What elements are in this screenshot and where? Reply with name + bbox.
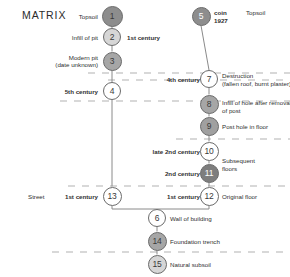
- edge-5-7: [201, 26, 209, 71]
- context-node-5-number: 5: [199, 12, 204, 21]
- context-node-10-number: 10: [204, 147, 213, 156]
- context-node-2-number: 2: [110, 33, 115, 42]
- context-node-13-number: 13: [107, 192, 116, 201]
- context-node-15[interactable]: 15: [148, 255, 167, 274]
- context-node-4[interactable]: 4: [103, 82, 121, 100]
- context-node-15-number: 15: [152, 260, 161, 269]
- label-node-5-coin-line2: 1927: [214, 17, 228, 24]
- context-node-9[interactable]: 9: [200, 117, 219, 136]
- context-node-11[interactable]: 11: [200, 164, 219, 183]
- context-node-8[interactable]: 8: [200, 95, 219, 114]
- context-node-3-number: 3: [110, 57, 115, 66]
- context-node-9-number: 9: [207, 122, 212, 131]
- label-node-14-description: Foundation trench: [170, 238, 220, 245]
- context-node-4-number: 4: [110, 87, 115, 96]
- label-node-10-description-line2: floors: [222, 165, 237, 172]
- context-node-5[interactable]: 5: [192, 7, 211, 26]
- context-node-1-number: 1: [110, 12, 115, 21]
- label-node-1-description: Topsoil: [79, 13, 98, 20]
- label-node-2-description: Infill of pit: [72, 34, 98, 41]
- label-node-6-description: Wall of building: [170, 215, 212, 222]
- context-node-1[interactable]: 1: [102, 6, 123, 27]
- context-node-6[interactable]: 6: [148, 209, 166, 227]
- label-node-11-date: 2nd century: [165, 170, 200, 177]
- context-node-12-number: 12: [204, 192, 213, 201]
- harris-matrix-diagram: MATRIX 123456789101112131415 Topsoil Inf…: [0, 0, 290, 277]
- label-node-2-date: 1st century: [127, 34, 160, 41]
- label-node-4-date: 5th century: [65, 88, 98, 95]
- label-node-7-date: 4th century: [167, 76, 200, 83]
- label-node-7-description-line2: (fallen roof, burnt plaster): [222, 80, 290, 87]
- context-node-14-number: 14: [152, 237, 161, 246]
- context-node-12[interactable]: 12: [200, 187, 219, 206]
- context-node-3[interactable]: 3: [103, 52, 122, 71]
- context-node-11-number: 11: [205, 169, 213, 178]
- context-node-6-number: 6: [155, 214, 160, 223]
- label-node-12-date: 1st century: [167, 193, 200, 200]
- label-node-3-description-line2: (date unknown): [55, 61, 98, 68]
- label-node-12-description: Original floor: [222, 193, 257, 200]
- label-node-5-coin-line1: coin: [214, 9, 227, 16]
- context-node-13[interactable]: 13: [103, 187, 122, 206]
- label-node-10-description-line1: Subsequent: [222, 157, 255, 164]
- connector-layer: [0, 0, 290, 277]
- context-node-7-number: 7: [207, 75, 212, 84]
- label-node-10-date: late 2nd century: [153, 148, 200, 155]
- label-street: Street: [28, 193, 45, 200]
- context-node-10[interactable]: 10: [200, 142, 219, 161]
- context-node-2[interactable]: 2: [103, 28, 121, 46]
- context-node-8-number: 8: [207, 100, 212, 109]
- label-node-13-date: 1st century: [65, 193, 98, 200]
- label-node-8-description-line1: Infill of hole after removal: [222, 99, 290, 106]
- label-node-7-description-line1: Destruction: [222, 72, 253, 79]
- label-node-8-description-line2: of post: [222, 107, 241, 114]
- label-node-9-description: Post hole in floor: [222, 123, 268, 130]
- context-node-7[interactable]: 7: [200, 70, 218, 88]
- context-node-14[interactable]: 14: [148, 232, 167, 251]
- label-node-15-description: Natural subsoil: [170, 261, 211, 268]
- label-node-5-description: Topsoil: [246, 9, 265, 16]
